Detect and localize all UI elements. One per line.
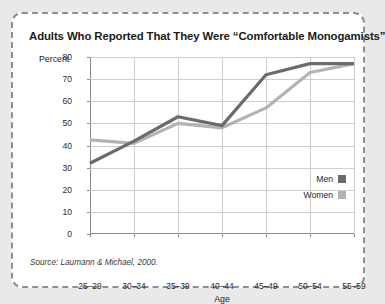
x-tick-mark: [134, 234, 135, 237]
legend-swatch-men: [338, 175, 346, 183]
x-tick-mark: [310, 234, 311, 237]
chart-legend: Men Women: [268, 171, 346, 203]
y-tick-label: 30: [42, 163, 72, 173]
plot-area: 0102030405060708025–2930–3435–3940–4445–…: [90, 57, 354, 234]
legend-swatch-women: [338, 191, 346, 199]
legend-label-women: Women: [304, 190, 333, 200]
x-tick-mark: [354, 234, 355, 237]
y-tick-label: 20: [42, 185, 72, 195]
x-tick-label: 40–44: [199, 281, 245, 291]
x-tick-label: 30–34: [111, 281, 157, 291]
chart-series-layer: [90, 57, 354, 234]
y-tick-label: 80: [42, 52, 72, 62]
x-axis-label: Age: [90, 294, 354, 304]
y-tick-mark: [87, 123, 90, 124]
x-tick-label: 35–39: [155, 281, 201, 291]
chart-title: Adults Who Reported That They Were “Comf…: [29, 30, 355, 42]
y-tick-label: 50: [42, 118, 72, 128]
legend-item-men: Men: [268, 171, 346, 187]
y-tick-mark: [87, 168, 90, 169]
y-tick-mark: [87, 57, 90, 58]
y-tick-mark: [87, 146, 90, 147]
legend-label-men: Men: [316, 174, 333, 184]
y-tick-label: 10: [42, 207, 72, 217]
x-tick-mark: [266, 234, 267, 237]
y-tick-mark: [87, 212, 90, 213]
x-tick-label: 50–54: [287, 281, 333, 291]
x-tick-mark: [222, 234, 223, 237]
y-tick-label: 60: [42, 96, 72, 106]
y-tick-mark: [87, 190, 90, 191]
x-tick-mark: [178, 234, 179, 237]
gridline-vertical: [354, 57, 355, 234]
legend-item-women: Women: [268, 187, 346, 203]
x-tick-label: 45–49: [243, 281, 289, 291]
x-tick-label: 55–59: [331, 281, 377, 291]
figure-card: Adults Who Reported That They Were “Comf…: [11, 12, 365, 288]
source-citation: Source: Laumann & Michael, 2000.: [30, 258, 158, 267]
series-line-men: [90, 64, 354, 164]
y-tick-mark: [87, 101, 90, 102]
series-line-women: [90, 64, 354, 144]
x-tick-label: 25–29: [67, 281, 113, 291]
y-tick-label: 40: [42, 141, 72, 151]
x-tick-mark: [90, 234, 91, 237]
y-tick-label: 0: [42, 229, 72, 239]
y-tick-mark: [87, 79, 90, 80]
y-tick-label: 70: [42, 74, 72, 84]
